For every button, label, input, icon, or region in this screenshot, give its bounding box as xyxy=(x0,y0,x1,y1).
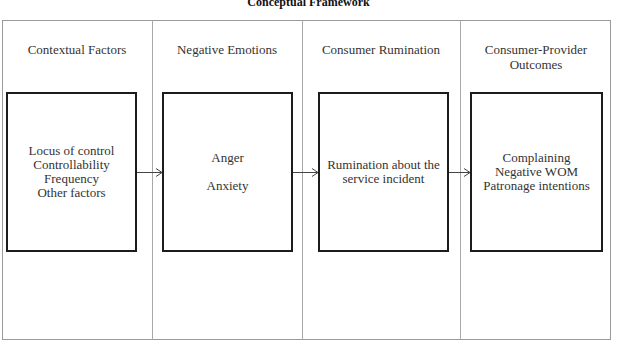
box-line: Other factors xyxy=(37,186,105,200)
header-line: Outcomes xyxy=(460,57,612,72)
box-line: Complaining xyxy=(503,151,571,165)
diagram-title: Conceptual Framework xyxy=(0,0,617,10)
box-line: service incident xyxy=(343,172,425,186)
box-negative-emotions: Anger Anxiety xyxy=(162,92,293,252)
box-line: Controllability xyxy=(33,158,110,172)
arrow-right-icon xyxy=(137,168,163,177)
box-contextual-factors: Locus of control Controllability Frequen… xyxy=(6,92,137,252)
header-negative-emotions: Negative Emotions xyxy=(152,42,302,57)
arrow-right-icon xyxy=(449,168,471,177)
header-line: Consumer-Provider xyxy=(460,42,612,57)
box-line: Rumination about the xyxy=(327,158,440,172)
header-consumer-provider-outcomes: Consumer-Provider Outcomes xyxy=(460,42,612,72)
arrow-right-icon xyxy=(293,168,319,177)
column-divider xyxy=(152,20,153,340)
header-consumer-rumination: Consumer Rumination xyxy=(302,42,460,57)
box-line: Locus of control xyxy=(29,144,115,158)
box-line: Anxiety xyxy=(207,179,249,193)
box-consumer-provider-outcomes: Complaining Negative WOM Patronage inten… xyxy=(470,92,603,252)
header-contextual-factors: Contextual Factors xyxy=(2,42,152,57)
box-line: Patronage intentions xyxy=(483,179,590,193)
box-line: Anger xyxy=(211,151,244,165)
box-consumer-rumination: Rumination about the service incident xyxy=(318,92,449,252)
column-divider xyxy=(302,20,303,340)
box-line: Negative WOM xyxy=(495,165,578,179)
box-line: Frequency xyxy=(44,172,99,186)
